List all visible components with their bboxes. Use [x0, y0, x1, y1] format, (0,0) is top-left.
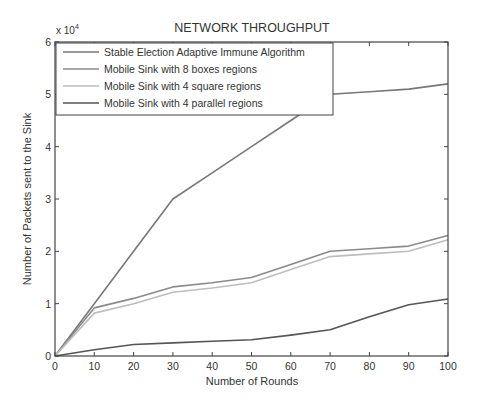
x-tick-label: 70	[324, 360, 336, 372]
series-line-1	[55, 84, 448, 356]
legend-label: Mobile Sink with 8 boxes regions	[104, 63, 257, 75]
x-axis-label: Number of Rounds	[206, 375, 299, 387]
x-tick-label: 60	[285, 360, 297, 372]
legend-label: Stable Election Adaptive Immune Algorith…	[104, 46, 305, 58]
series-line-4	[55, 299, 448, 356]
x-tick-label: 30	[167, 360, 179, 372]
legend-label: Mobile Sink with 4 parallel regions	[104, 97, 263, 109]
y-tick-label: 4	[45, 141, 51, 153]
legend-label: Mobile Sink with 4 square regions	[104, 80, 261, 92]
chart-figure: NETWORK THROUGHPUT x 104 Number of Packe…	[0, 0, 482, 403]
series-line-2	[55, 236, 448, 356]
x-tick-label: 40	[206, 360, 218, 372]
y-tick-label: 6	[45, 36, 51, 48]
data-series	[55, 84, 448, 356]
x-tick-label: 50	[246, 360, 258, 372]
y-tick-label: 2	[45, 245, 51, 257]
y-tick-label: 1	[45, 298, 51, 310]
x-tick-label: 90	[403, 360, 415, 372]
legend: Stable Election Adaptive Immune Algorith…	[56, 43, 333, 115]
x-tick-label: 100	[439, 360, 457, 372]
x-tick-label: 0	[52, 360, 58, 372]
y-tick-label: 0	[45, 350, 51, 362]
y-axis-label: Number of Packets sent to the Sink	[21, 112, 33, 285]
x-tick-label: 80	[364, 360, 376, 372]
y-tick-label: 3	[45, 193, 51, 205]
line-chart: NETWORK THROUGHPUT x 104 Number of Packe…	[0, 0, 482, 403]
y-multiplier-label: x 104	[56, 23, 79, 36]
x-tick-label: 10	[88, 360, 100, 372]
x-tick-label: 20	[128, 360, 140, 372]
chart-title: NETWORK THROUGHPUT	[174, 21, 330, 35]
series-line-3	[55, 240, 448, 356]
y-tick-label: 5	[45, 88, 51, 100]
